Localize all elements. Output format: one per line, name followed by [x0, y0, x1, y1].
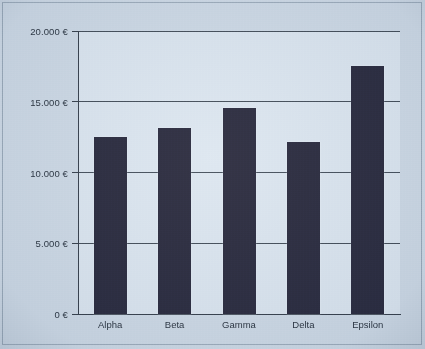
bar [223, 108, 256, 314]
bar [287, 142, 320, 314]
gridline [78, 31, 400, 32]
scanned-page: 0 €5.000 €10.000 €15.000 €20.000 € Alpha… [0, 0, 425, 349]
y-axis-tick-label: 5.000 € [36, 238, 68, 249]
x-axis-category-label: Delta [292, 319, 314, 330]
bar [158, 128, 191, 314]
bar [351, 66, 384, 314]
x-axis-line [78, 314, 401, 315]
x-axis-category-label: Epsilon [352, 319, 383, 330]
y-axis-tick-label: 15.000 € [30, 96, 68, 107]
y-axis-line [78, 31, 79, 315]
x-axis-category-label: Alpha [98, 319, 122, 330]
y-axis-tick-label: 20.000 € [30, 26, 68, 37]
bar [94, 137, 127, 314]
y-axis-tick-label: 0 € [54, 309, 68, 320]
bar-chart: 0 €5.000 €10.000 €15.000 €20.000 € Alpha… [0, 0, 425, 349]
y-axis-tick-label: 10.000 € [30, 167, 68, 178]
x-axis-category-label: Gamma [222, 319, 256, 330]
x-axis-category-label: Beta [165, 319, 185, 330]
